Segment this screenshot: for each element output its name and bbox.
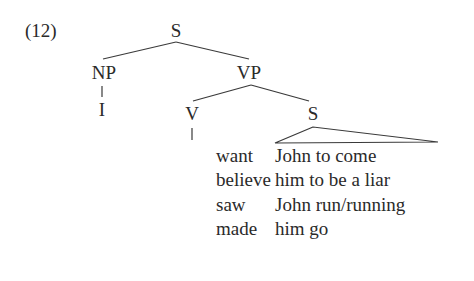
branch-vp-v (193, 85, 251, 101)
complement-1: John to come (275, 146, 376, 165)
node-s-embedded: S (308, 104, 319, 123)
example-number: (12) (25, 21, 57, 40)
verb-want: want (216, 146, 253, 165)
triangle-s (275, 127, 438, 143)
verb-made: made (216, 219, 257, 238)
branch-s-np (103, 42, 176, 59)
node-i: I (99, 100, 105, 119)
node-np: NP (92, 63, 116, 82)
complement-3: John run/running (275, 195, 405, 214)
node-s-root: S (171, 21, 182, 40)
complement-4: him go (275, 219, 328, 238)
complement-2: him to be a liar (275, 170, 390, 189)
node-v: V (185, 104, 199, 123)
verb-saw: saw (216, 195, 246, 214)
branch-vp-s (251, 85, 309, 101)
node-vp: VP (237, 63, 261, 82)
verb-believe: believe (216, 170, 271, 189)
branch-s-vp (176, 42, 249, 59)
